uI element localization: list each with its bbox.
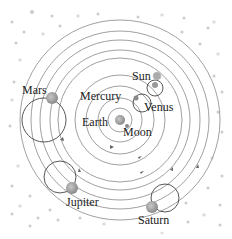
label-venus: Venus	[144, 100, 174, 114]
venus-icon	[152, 82, 158, 88]
jupiter-icon	[66, 182, 78, 194]
sun-icon	[153, 72, 161, 80]
label-jupiter: Jupiter	[66, 195, 99, 209]
earth-icon	[115, 115, 125, 125]
label-earth: Earth	[82, 115, 108, 129]
label-mars: Mars	[22, 83, 47, 97]
geocentric-diagram: Sun Mercury Venus Earth Moon Mars Jupite…	[0, 0, 232, 239]
mars-epicycle	[22, 98, 66, 142]
label-moon: Moon	[123, 125, 152, 139]
mars-icon	[46, 92, 58, 104]
label-mercury: Mercury	[80, 89, 121, 103]
mercury-icon	[134, 96, 139, 101]
label-sun: Sun	[132, 69, 151, 83]
label-saturn: Saturn	[138, 213, 169, 227]
saturn-icon	[146, 201, 158, 213]
